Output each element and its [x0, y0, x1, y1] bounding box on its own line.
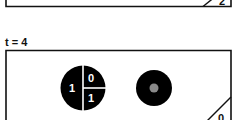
target-circle: [136, 70, 172, 106]
split-circle-left-value: 1: [69, 82, 75, 94]
split-circle-bottom-right-value: 1: [88, 92, 94, 104]
diagram-canvas: 2 t = 4 0 1 0 1: [0, 0, 238, 120]
top-panel-corner-label: 2: [219, 0, 225, 7]
bottom-panel: 0 1 0 1: [6, 51, 231, 121]
bottom-panel-corner-label: 0: [218, 112, 224, 120]
top-panel-border: [6, 0, 231, 7]
top-panel-corner-divider: [203, 0, 216, 7]
bottom-panel-border: [6, 51, 231, 121]
target-circle-center: [150, 84, 159, 93]
time-label: t = 4: [5, 36, 28, 48]
split-circle: 1 0 1: [61, 65, 107, 111]
top-panel: 2: [6, 0, 231, 7]
split-circle-top-right-value: 0: [88, 72, 94, 84]
